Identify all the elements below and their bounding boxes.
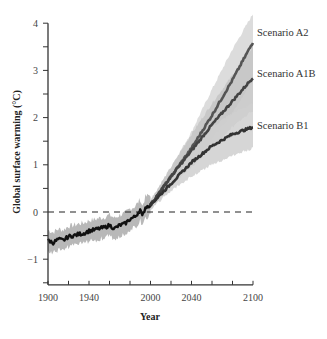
y-axis-title: Global surface warming (°C) xyxy=(11,90,23,214)
uncertainty-bands xyxy=(48,14,253,254)
x-tick-label: 2100 xyxy=(243,292,263,303)
y-tick-label: 3 xyxy=(33,65,38,76)
series-label-scenario-a2: Scenario A2 xyxy=(257,27,309,38)
historical-uncertainty-band xyxy=(48,194,151,255)
y-tick-label: 1 xyxy=(33,159,38,170)
x-tick-label: 2040 xyxy=(182,292,202,303)
y-tick-label: 4 xyxy=(33,18,38,29)
x-tick-label: 1940 xyxy=(79,292,99,303)
series-label-scenario-a1b: Scenario A1B xyxy=(257,68,316,79)
x-tick-label: 1900 xyxy=(38,292,58,303)
y-tick-label: −1 xyxy=(27,254,38,265)
series-label-scenario-b1: Scenario B1 xyxy=(257,120,309,131)
y-tick-label: 2 xyxy=(33,112,38,123)
y-tick-label: 0 xyxy=(33,207,38,218)
series-labels: Scenario A2Scenario A1BScenario B1 xyxy=(257,27,316,131)
x-tick-label: 2000 xyxy=(141,292,161,303)
warming-chart: −10123419001940200020402100 Scenario A2S… xyxy=(0,0,327,339)
x-axis-title: Year xyxy=(140,311,161,322)
